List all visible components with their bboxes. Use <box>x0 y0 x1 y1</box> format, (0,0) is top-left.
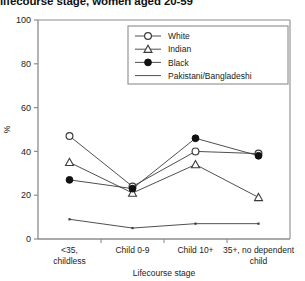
data-point <box>192 148 199 155</box>
x-axis-category-label: 35+, no dependent <box>223 245 295 255</box>
legend-label: Indian <box>168 44 191 54</box>
series-white <box>66 133 262 190</box>
data-point <box>257 223 259 225</box>
legend-marker <box>145 59 152 66</box>
data-point <box>192 135 199 142</box>
data-point <box>194 223 196 225</box>
y-axis-tick-label: 40 <box>21 147 31 157</box>
x-axis-category-label: childless <box>53 256 86 266</box>
x-axis-category-label: child <box>250 256 268 266</box>
y-axis-tick-label: 20 <box>21 190 31 200</box>
data-point <box>255 193 263 200</box>
data-point <box>68 218 70 220</box>
x-axis-title: Lifecourse stage <box>133 268 196 278</box>
data-point <box>129 185 136 192</box>
legend-label: Pakistani/Bangladeshi <box>168 71 252 81</box>
x-axis-category-label: Child 10+ <box>177 245 213 255</box>
axis-titles: Lifecourse stage% <box>2 125 195 278</box>
data-point <box>66 133 73 140</box>
series-pakistani-bangladeshi <box>68 218 259 229</box>
x-axis-category-label: <35, <box>61 245 78 255</box>
legend-marker <box>145 33 152 40</box>
data-point <box>255 152 262 159</box>
data-series-group <box>66 133 263 229</box>
series-line <box>70 162 259 197</box>
y-axis-tick-label: 0 <box>26 234 31 244</box>
series-indian <box>66 158 263 200</box>
data-point <box>66 176 73 183</box>
y-axis-tick-label: 100 <box>16 15 31 25</box>
x-axis-category-label: Child 0-9 <box>115 245 149 255</box>
data-point <box>192 161 200 168</box>
data-point <box>66 158 74 165</box>
series-line <box>70 219 259 228</box>
chart-legend: WhiteIndianBlackPakistani/Bangladeshi <box>128 26 288 84</box>
y-axis-title: % <box>2 125 12 133</box>
y-axis-tick-label: 60 <box>21 103 31 113</box>
legend-label: White <box>168 31 190 41</box>
legend-label: Black <box>168 58 190 68</box>
series-line <box>70 138 259 188</box>
x-axis: <35,childlessChild 0-9Child 10+35+, no d… <box>38 239 295 266</box>
y-axis-tick-label: 80 <box>21 59 31 69</box>
line-chart-plot: 020406080100 <35,childlessChild 0-9Child… <box>0 0 305 281</box>
data-point <box>131 227 133 229</box>
chart-container: lifecourse stage, women aged 20-59 02040… <box>0 0 305 281</box>
